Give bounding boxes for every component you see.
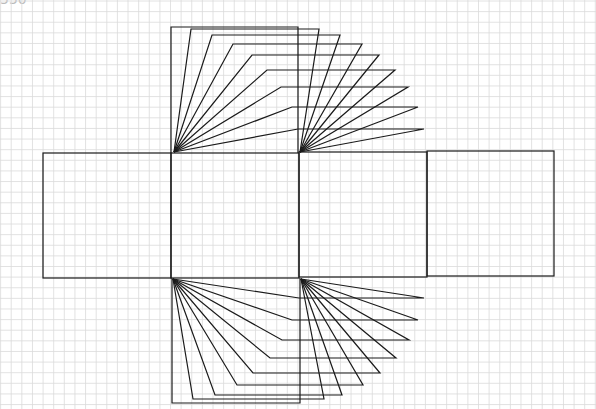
outer-frames (171, 27, 300, 403)
fan-polyline (173, 279, 424, 298)
fan-polyline (174, 129, 424, 152)
bottom-fan-lines (173, 279, 424, 399)
cube-net-faces (43, 151, 554, 278)
center-face (171, 153, 299, 278)
diagram-canvas (0, 0, 596, 409)
fan-polyline (173, 279, 409, 340)
fan-polyline (173, 279, 342, 395)
top-fan-lines (174, 29, 424, 152)
